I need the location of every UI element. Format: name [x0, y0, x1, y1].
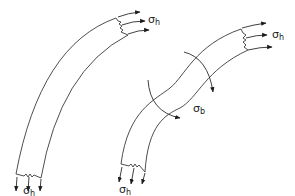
right-s-segment: σh σh σb: [119, 23, 284, 196]
sigma-b-label: σb: [193, 102, 205, 116]
right-top-arrows: [242, 23, 272, 50]
right-bottom-arrows: [119, 167, 145, 184]
right-bottom-sigma-h-label: σh: [119, 183, 131, 196]
stress-diagram: σh σh σh σh σb: [0, 0, 295, 196]
left-curved-segment: σh σh: [16, 12, 160, 196]
left-top-section-cut: [116, 18, 128, 35]
left-bottom-section-cut: [16, 174, 41, 178]
right-top-section-cut: [241, 29, 248, 50]
right-outer-wall: [121, 29, 241, 164]
right-top-sigma-h-label: σh: [272, 28, 284, 42]
left-top-sigma-h-label: σh: [148, 13, 160, 27]
left-outer-wall: [16, 18, 116, 174]
left-inner-wall: [41, 35, 128, 178]
left-bottom-sigma-h-label: σh: [23, 184, 35, 196]
right-bottom-section-cut: [121, 164, 145, 172]
